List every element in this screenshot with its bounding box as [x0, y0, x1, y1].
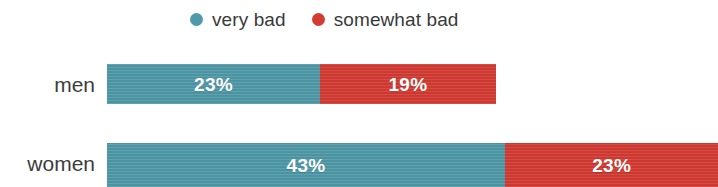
bar-segment-men-very-bad: 23%	[107, 64, 320, 104]
legend-label-very-bad: very bad	[212, 10, 286, 29]
bar-women: 43% 23%	[107, 143, 718, 187]
bar-segment-women-very-bad: 43%	[107, 143, 505, 187]
bar-value-women-very-bad: 43%	[287, 156, 326, 175]
bar-value-men-somewhat-bad: 19%	[388, 75, 427, 94]
legend-item-somewhat-bad: somewhat bad	[312, 10, 459, 29]
bar-segment-men-somewhat-bad: 19%	[320, 64, 496, 104]
legend-dot-icon	[190, 13, 203, 26]
legend-item-very-bad: very bad	[190, 10, 286, 29]
bar-value-men-very-bad: 23%	[194, 75, 233, 94]
bar-segment-women-somewhat-bad: 23%	[505, 143, 718, 187]
chart-row-women: women	[0, 143, 95, 183]
legend-dot-icon	[312, 13, 325, 26]
legend-label-somewhat-bad: somewhat bad	[334, 10, 459, 29]
bar-men: 23% 19%	[107, 64, 496, 104]
category-label-women: women	[0, 153, 95, 174]
chart-legend: very bad somewhat bad	[190, 6, 458, 32]
chart-row-men: men	[0, 64, 95, 104]
bar-value-women-somewhat-bad: 23%	[592, 156, 631, 175]
category-label-men: men	[0, 74, 95, 95]
